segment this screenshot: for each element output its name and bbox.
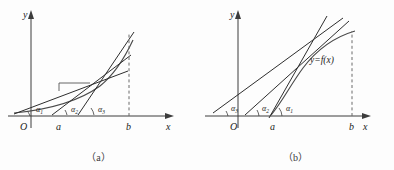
angle-arc-2-a (65, 110, 67, 115)
tangent-line-3-a (78, 32, 134, 115)
function-label-b: y=f(x) (309, 55, 334, 66)
origin-label-b: O (230, 121, 237, 132)
panel-b: α3 α2 α1 y=f(x) y x O a b （b） (197, 0, 394, 170)
angle-arc-2-b (257, 110, 259, 116)
angle-arc-3-b (279, 108, 282, 116)
x-axis-b (205, 113, 371, 119)
panel-b-diagram: α3 α2 α1 y=f(x) y x O a b (197, 0, 394, 170)
y-axis-arrowhead-b (235, 10, 241, 19)
concave-curve-b (271, 31, 355, 115)
angle-arc-1-b (226, 111, 228, 116)
x-axis-label-b: x (362, 121, 368, 132)
angle-label-2-a: α2 (71, 105, 78, 115)
x-axis-label-a: x (165, 121, 171, 132)
tick-label-a-b: a (270, 121, 275, 132)
origin-label-a: O (20, 121, 27, 132)
y-axis-arrowhead-a (28, 10, 34, 19)
panel-a-diagram: α1 α2 α3 y x O a b (0, 0, 197, 170)
tick-label-a-a: a (56, 121, 61, 132)
angle-arc-1-a (28, 112, 30, 116)
caption-b: （b） (197, 149, 394, 164)
convex-curve-a (14, 40, 133, 113)
y-axis-label-a: y (22, 9, 28, 20)
angle-label-3-b: α1 (286, 104, 293, 114)
tick-label-b-b: b (349, 121, 354, 132)
tangent-line-2-a (52, 55, 131, 115)
angle-label-2-b: α2 (262, 104, 269, 114)
panel-a: α1 α2 α3 y x O a b （a） (0, 0, 197, 170)
x-axis-arrowhead-b (362, 113, 371, 119)
figure-container: α1 α2 α3 y x O a b （a） (0, 0, 394, 170)
angle-arc-3-a (91, 108, 94, 115)
angle-label-1-b: α3 (231, 104, 238, 114)
x-axis-a (8, 113, 174, 119)
angle-label-3-a: α3 (98, 105, 105, 115)
caption-a: （a） (0, 149, 197, 164)
x-axis-arrowhead-a (165, 113, 174, 119)
tick-label-b-a: b (126, 121, 131, 132)
y-axis-label-b: y (229, 9, 235, 20)
tangent-line-1-b (213, 18, 343, 113)
angle-label-1-a: α1 (36, 105, 43, 115)
tangent-line-3-b (269, 16, 327, 118)
